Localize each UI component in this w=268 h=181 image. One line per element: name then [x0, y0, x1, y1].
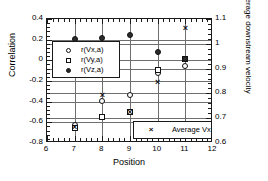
- axis-tick-major: [130, 136, 131, 141]
- y-axis-left-tick-label: 0.2: [32, 35, 43, 43]
- chart-figure: ××××× 0.40.20-0.2-0.4-0.6-0.8 1.110.90.8…: [0, 0, 268, 181]
- axis-tick-minor: [208, 59, 211, 60]
- axis-tick-major: [206, 69, 211, 70]
- data-point-diamond: [99, 35, 105, 41]
- y-axis-right-tick-label: 1: [215, 39, 219, 47]
- axis-tick-minor: [207, 19, 208, 22]
- legend-label-rvxa: r(Vx,a): [75, 46, 104, 54]
- axis-tick-major: [47, 102, 52, 103]
- axis-tick-minor: [97, 138, 98, 141]
- axis-tick-minor: [47, 131, 50, 132]
- axis-tick-minor: [208, 83, 211, 84]
- axis-tick-minor: [47, 114, 50, 115]
- axis-tick-minor: [47, 106, 50, 107]
- axis-tick-minor: [80, 138, 81, 141]
- axis-tick-minor: [136, 19, 137, 22]
- data-point-square: [155, 67, 161, 73]
- y-axis-right-tick-label: 0.9: [215, 64, 226, 72]
- axis-tick-minor: [191, 19, 192, 22]
- axis-tick-minor: [47, 69, 50, 70]
- axis-tick-minor: [64, 138, 65, 141]
- axis-tick-minor: [208, 79, 211, 80]
- x-axis-tick-label: 6: [44, 145, 48, 153]
- axis-tick-major: [47, 122, 52, 123]
- legend-label-rvza: r(Vz,a): [75, 66, 104, 74]
- axis-tick-major: [47, 81, 52, 82]
- axis-tick-minor: [163, 19, 164, 22]
- x-axis-tick-label: 9: [127, 145, 131, 153]
- x-axis-tick-label: 8: [99, 145, 103, 153]
- gridline-horizontal-right: [47, 118, 211, 119]
- x-axis-tick-labels: 6789101112: [46, 145, 212, 157]
- axis-tick-minor: [47, 89, 50, 90]
- axis-tick-minor: [147, 19, 148, 22]
- axis-tick-minor: [169, 19, 170, 22]
- axis-tick-minor: [113, 19, 114, 22]
- data-point-circle: [127, 92, 133, 98]
- axis-tick-major: [130, 19, 131, 24]
- y-axis-right-tick-label: 0.7: [215, 113, 226, 121]
- axis-tick-minor: [97, 19, 98, 22]
- axis-tick-minor: [47, 73, 50, 74]
- left-axis-tick-labels: 0.40.20-0.2-0.4-0.6-0.8: [18, 18, 43, 142]
- axis-tick-minor: [208, 39, 211, 40]
- axis-tick-minor: [208, 49, 211, 50]
- y-axis-left-tick-label: -0.6: [29, 117, 43, 125]
- axis-tick-minor: [47, 85, 50, 86]
- axis-tick-minor: [47, 27, 50, 28]
- axis-tick-minor: [208, 34, 211, 35]
- y-axis-left-tick-label: 0: [39, 55, 43, 63]
- axis-tick-minor: [86, 19, 87, 22]
- axis-tick-minor: [208, 103, 211, 104]
- y-axis-right-title: Average downstream velocity: [244, 0, 253, 104]
- axis-tick-minor: [47, 118, 50, 119]
- data-point-cross: ×: [70, 122, 79, 131]
- axis-tick-minor: [141, 19, 142, 22]
- axis-tick-minor: [58, 19, 59, 22]
- axis-tick-minor: [180, 19, 181, 22]
- axis-tick-minor: [202, 19, 203, 22]
- axis-tick-minor: [113, 138, 114, 141]
- axis-tick-minor: [91, 138, 92, 141]
- axis-tick-minor: [208, 24, 211, 25]
- axis-tick-minor: [208, 54, 211, 55]
- axis-tick-minor: [58, 138, 59, 141]
- gridline-horizontal: [47, 81, 211, 82]
- axis-tick-minor: [47, 98, 50, 99]
- y-axis-left-tick-label: -0.4: [29, 97, 43, 105]
- x-axis-tick-label: 7: [71, 145, 75, 153]
- data-point-diamond: [155, 49, 161, 55]
- y-axis-left-tick-label: -0.8: [29, 138, 43, 146]
- gridline-horizontal: [47, 102, 211, 103]
- y-axis-right-tick-label: 0.8: [215, 88, 226, 96]
- y-axis-right-tick-label: 0.6: [215, 138, 226, 146]
- axis-tick-major: [158, 19, 159, 24]
- axis-tick-minor: [208, 29, 211, 30]
- axis-tick-minor: [196, 19, 197, 22]
- y-axis-left-tick-label: 0.4: [32, 14, 43, 22]
- axis-tick-minor: [47, 77, 50, 78]
- axis-tick-minor: [69, 138, 70, 141]
- legend-item-rvza: r(Vz,a): [53, 65, 119, 75]
- x-axis-tick-label: 11: [180, 145, 188, 153]
- axis-tick-minor: [119, 138, 120, 141]
- axis-tick-major: [75, 19, 76, 24]
- data-point-diamond: [182, 56, 188, 62]
- axis-tick-minor: [47, 93, 50, 94]
- axis-tick-minor: [69, 19, 70, 22]
- data-point-square: [99, 114, 105, 120]
- axis-tick-minor: [47, 110, 50, 111]
- y-axis-left-title: Correlation: [7, 15, 17, 95]
- data-point-cross: ×: [181, 23, 190, 32]
- legend-velocity: × Average Vx: [133, 121, 212, 139]
- axis-tick-minor: [124, 19, 125, 22]
- axis-tick-minor: [47, 36, 50, 37]
- axis-tick-minor: [208, 98, 211, 99]
- diamond-marker-icon: [61, 68, 75, 73]
- circle-marker-icon: [61, 48, 75, 53]
- y-axis-right-tick-label: 1.1: [215, 14, 226, 22]
- axis-tick-minor: [208, 74, 211, 75]
- axis-tick-minor: [91, 19, 92, 22]
- legend-item-rvya: r(Vy,a): [53, 55, 119, 65]
- axis-tick-major: [75, 136, 76, 141]
